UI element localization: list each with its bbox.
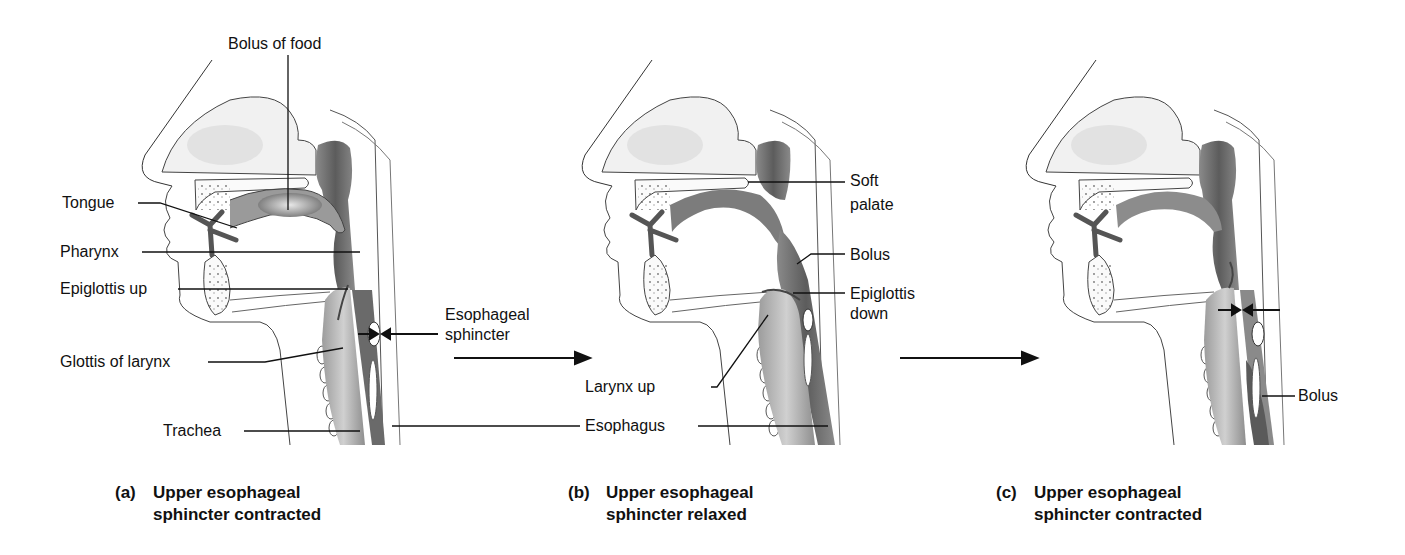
transition-arrow-a-to-b <box>454 352 590 364</box>
caption-a-letter: (a) <box>115 483 136 503</box>
caption-b-line1: Upper esophageal <box>606 483 753 503</box>
caption-b: (b) Upper esophageal sphincter relaxed <box>568 483 828 527</box>
label-trachea: Trachea <box>163 421 221 440</box>
label-epiglottis-down-line1: Epiglottis <box>850 284 915 303</box>
label-larynx-up: Larynx up <box>585 377 655 396</box>
label-esophageal-sphincter-line2: sphincter <box>445 325 510 344</box>
caption-b-letter: (b) <box>568 483 590 503</box>
caption-c-line2: sphincter contracted <box>1034 505 1202 525</box>
label-glottis-of-larynx: Glottis of larynx <box>60 352 170 371</box>
caption-b-line2: sphincter relaxed <box>606 505 747 525</box>
caption-c: (c) Upper esophageal sphincter contracte… <box>996 483 1256 527</box>
caption-a-line2: sphincter contracted <box>153 505 321 525</box>
label-bolus-of-food: Bolus of food <box>228 34 321 53</box>
label-bolus-c: Bolus <box>1298 386 1338 405</box>
label-epiglottis-down-line2: down <box>850 304 888 323</box>
label-esophagus: Esophagus <box>585 416 665 435</box>
label-bolus-b: Bolus <box>850 245 890 264</box>
swallowing-diagram-art <box>0 0 1405 555</box>
label-esophageal-sphincter-line1: Esophageal <box>445 305 530 324</box>
panel-c-drawing <box>1026 60 1284 445</box>
label-tongue: Tongue <box>62 193 115 212</box>
caption-a-line1: Upper esophageal <box>153 483 300 503</box>
label-epiglottis-up: Epiglottis up <box>60 279 147 298</box>
caption-c-letter: (c) <box>996 483 1017 503</box>
label-soft-palate-line1: Soft <box>850 171 878 190</box>
label-pharynx: Pharynx <box>60 242 119 261</box>
transition-arrow-b-to-c <box>900 352 1037 364</box>
caption-a: (a) Upper esophageal sphincter contracte… <box>115 483 375 527</box>
caption-c-line1: Upper esophageal <box>1034 483 1181 503</box>
sphincter-arrows-a <box>358 329 438 339</box>
label-soft-palate-line2: palate <box>850 195 894 214</box>
